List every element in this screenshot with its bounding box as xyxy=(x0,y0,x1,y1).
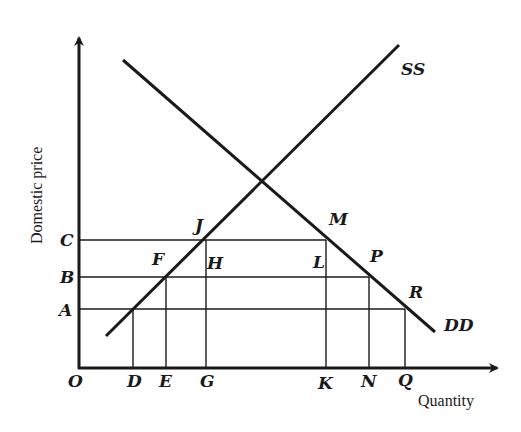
qty-label-e: E xyxy=(158,371,173,391)
price-label-c: C xyxy=(60,230,74,250)
point-label-h: H xyxy=(206,253,224,273)
qty-label-g: G xyxy=(200,371,215,391)
y-axis-title: Domestic price xyxy=(28,147,46,244)
qty-label-k: K xyxy=(317,373,334,393)
point-label-l: L xyxy=(312,252,325,272)
point-label-m: M xyxy=(328,209,349,229)
point-label-j: J xyxy=(192,215,204,235)
point-label-r: R xyxy=(408,282,423,302)
demand-curve-label: DD xyxy=(443,315,474,335)
point-label-p: P xyxy=(369,246,384,266)
qty-label-q: Q xyxy=(398,370,413,390)
supply-demand-diagram: Domestic price Quantity SS DD C B A O D … xyxy=(0,0,521,432)
price-label-a: A xyxy=(57,300,72,320)
price-label-b: B xyxy=(59,267,74,287)
origin-label: O xyxy=(68,371,83,391)
supply-curve xyxy=(106,45,399,336)
qty-label-n: N xyxy=(360,371,378,391)
demand-curve xyxy=(123,60,435,332)
supply-curve-label: SS xyxy=(401,59,425,79)
x-axis-title: Quantity xyxy=(418,392,474,410)
qty-label-d: D xyxy=(126,371,142,391)
point-label-f: F xyxy=(151,249,166,269)
